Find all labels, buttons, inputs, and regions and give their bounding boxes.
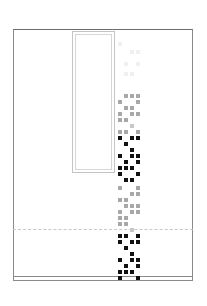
pattern-square (136, 94, 140, 98)
pattern-square (130, 124, 134, 128)
pattern-square (136, 62, 140, 66)
pattern-square (130, 192, 134, 196)
pattern-square (130, 240, 134, 244)
pattern-square (118, 130, 122, 134)
pattern-square (118, 154, 122, 158)
pattern-square (118, 166, 122, 170)
pattern-square (130, 210, 134, 214)
pattern-square (124, 234, 128, 238)
pattern-square (136, 130, 140, 134)
pattern-square (124, 204, 128, 208)
pattern-square (118, 198, 122, 202)
pattern-square (124, 160, 128, 164)
pattern-square (118, 172, 122, 176)
pattern-square (124, 246, 128, 250)
pattern-square (124, 216, 128, 220)
pattern-square (118, 240, 122, 244)
pattern-square (118, 270, 122, 274)
pattern-square (118, 186, 122, 190)
pattern-square (130, 270, 134, 274)
dashed-guide-line (13, 229, 193, 230)
pattern-square (124, 72, 128, 76)
pattern-square (118, 112, 122, 116)
footer-divider (13, 276, 193, 277)
pattern-square (118, 42, 122, 46)
pattern-square (130, 106, 134, 110)
pattern-square (130, 204, 134, 208)
tall-panel-inner-border (75, 34, 112, 170)
pattern-square (118, 210, 122, 214)
pattern-square (118, 136, 122, 140)
pattern-square (130, 50, 134, 54)
pattern-square (136, 100, 140, 104)
pattern-square (136, 204, 140, 208)
pattern-square (130, 178, 134, 182)
pattern-square (136, 50, 140, 54)
pattern-square (130, 94, 134, 98)
pattern-square (136, 136, 140, 140)
pattern-square (130, 154, 134, 158)
pattern-square (118, 234, 122, 238)
pattern-square (130, 258, 134, 262)
pattern-square (124, 106, 128, 110)
pattern-square (130, 166, 134, 170)
pattern-square (136, 264, 140, 268)
pattern-square (118, 276, 122, 280)
pattern-square (130, 228, 134, 232)
pattern-square (124, 270, 128, 274)
pattern-square (136, 112, 140, 116)
pattern-square (136, 240, 140, 244)
pattern-square (136, 154, 140, 158)
pattern-square (124, 166, 128, 170)
pattern-square (124, 118, 128, 122)
pattern-square (136, 276, 140, 280)
pattern-square (136, 234, 140, 238)
pattern-square (118, 100, 122, 104)
pattern-square (118, 216, 122, 220)
pattern-square (130, 252, 134, 256)
pattern-square (118, 118, 122, 122)
pattern-square (118, 222, 122, 226)
pattern-square (124, 62, 128, 66)
pattern-square (130, 136, 134, 140)
pattern-square (136, 186, 140, 190)
pattern-square (136, 210, 140, 214)
pattern-square (124, 130, 128, 134)
pattern-square (124, 198, 128, 202)
pattern-square (124, 178, 128, 182)
pattern-square (136, 160, 140, 164)
pattern-square (118, 258, 122, 262)
pattern-square (124, 94, 128, 98)
pattern-square (136, 192, 140, 196)
pattern-square (124, 264, 128, 268)
pattern-square (124, 142, 128, 146)
pattern-square (130, 72, 134, 76)
pattern-square (130, 148, 134, 152)
pattern-square (136, 258, 140, 262)
pattern-square (124, 222, 128, 226)
pattern-square (130, 112, 134, 116)
pattern-square (136, 172, 140, 176)
